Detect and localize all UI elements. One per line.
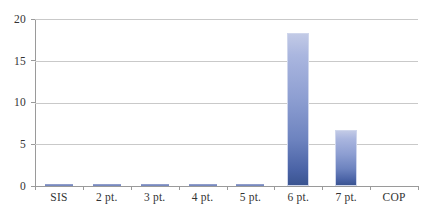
x-tick-mark (227, 186, 228, 190)
x-tick-mark (418, 186, 419, 190)
bar-chart: 20 15 10 5 0 SIS (0, 0, 422, 219)
x-tick-label-3pt: 3 pt. (131, 192, 179, 216)
x-tick-label-cop: COP (370, 192, 418, 216)
y-tick-label-15: 15 (14, 56, 26, 68)
y-tick-label-0: 0 (20, 181, 26, 193)
y-tick-label-5: 5 (20, 139, 26, 151)
x-tick-mark (370, 186, 371, 190)
x-tick-mark (35, 186, 36, 190)
y-axis-labels: 20 15 10 5 0 (0, 0, 32, 219)
x-tick-label-sis: SIS (35, 192, 83, 216)
x-tick-label-4pt: 4 pt. (179, 192, 227, 216)
x-axis-labels: SIS 2 pt. 3 pt. 4 pt. 5 pt. 6 pt. 7 pt. … (35, 192, 418, 216)
x-tick-label-5pt: 5 pt. (227, 192, 275, 216)
bar-7pt (335, 130, 357, 186)
y-tick-label-10: 10 (14, 97, 26, 109)
x-tick-mark (83, 186, 84, 190)
x-tick-label-2pt: 2 pt. (83, 192, 131, 216)
bar-series (35, 19, 418, 186)
plot-area (35, 19, 418, 186)
bar-6pt (287, 33, 309, 186)
x-axis-ticks (35, 186, 418, 191)
x-tick-label-7pt: 7 pt. (322, 192, 370, 216)
x-tick-mark (179, 186, 180, 190)
x-tick-mark (322, 186, 323, 190)
x-tick-mark (131, 186, 132, 190)
y-tick-label-20: 20 (14, 14, 26, 26)
x-tick-label-6pt: 6 pt. (274, 192, 322, 216)
x-tick-mark (274, 186, 275, 190)
